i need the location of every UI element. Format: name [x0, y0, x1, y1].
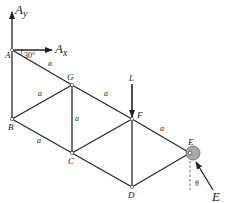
member-length-label: a — [38, 89, 42, 98]
node-label-F: F — [136, 110, 143, 120]
truss-diagram: Ay Ax 30° L θ E aaaaaaAGBCFDE — [0, 0, 226, 203]
member-BC — [12, 119, 72, 153]
ay-label: Ay — [14, 2, 28, 19]
node-label-G: G — [67, 72, 74, 82]
member-length-label: a — [104, 89, 108, 98]
node-label-E: E — [187, 137, 194, 147]
truss-labels: aaaaaaAGBCFDE — [4, 50, 194, 200]
load-label: L — [128, 73, 134, 83]
joint-C-icon — [70, 151, 73, 154]
node-label-C: C — [68, 156, 75, 166]
joint-D-icon — [130, 185, 133, 188]
angle-30-label: 30° — [24, 51, 35, 60]
member-CF — [72, 119, 132, 153]
member-length-label: a — [75, 114, 79, 123]
theta-label: θ — [195, 179, 199, 188]
joint-A-icon — [10, 48, 13, 51]
member-length-label: a — [48, 59, 52, 68]
member-GF — [72, 85, 132, 119]
angle-arc-icon — [21, 50, 22, 55]
member-length-label: a — [160, 124, 164, 133]
joint-B-icon — [10, 117, 13, 120]
pin-icon — [188, 151, 192, 155]
node-label-B: B — [8, 122, 14, 132]
node-label-A: A — [4, 50, 11, 60]
joint-F-icon — [130, 117, 133, 120]
joint-G-icon — [70, 83, 73, 86]
e-reaction-label: E — [211, 189, 220, 203]
member-DE — [132, 153, 190, 187]
ax-label: Ax — [54, 41, 68, 58]
member-CD — [72, 153, 132, 187]
member-BG — [12, 85, 72, 119]
member-length-label: a — [37, 136, 41, 145]
node-label-D: D — [127, 190, 135, 200]
truss-members — [12, 50, 190, 187]
